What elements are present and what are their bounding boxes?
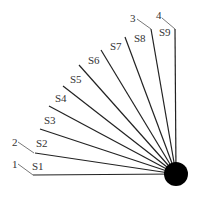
radial-line-s2: [35, 153, 176, 174]
hub-circle: [164, 162, 188, 186]
callouts: 1234: [12, 9, 175, 175]
line-label-s4: S4: [55, 92, 67, 104]
radial-line-s4: [49, 106, 176, 174]
radial-line-s1: [33, 174, 176, 175]
callout-leader-3: [137, 19, 151, 29]
callout-number-4: 4: [156, 9, 162, 21]
line-label-s3: S3: [44, 114, 56, 126]
callout-leader-1: [18, 164, 33, 175]
callout-number-1: 1: [12, 158, 18, 170]
line-label-s5: S5: [70, 73, 82, 85]
radial-line-l4: [175, 29, 176, 174]
callout-number-3: 3: [130, 12, 136, 24]
line-label-s8: S8: [134, 32, 146, 44]
line-label-s7: S7: [110, 40, 122, 52]
fan-diagram-svg: S1S2S3S4S5S6S7S8S9 1234: [0, 0, 198, 199]
line-label-s2: S2: [36, 137, 48, 149]
fan-diagram: S1S2S3S4S5S6S7S8S9 1234: [0, 0, 198, 199]
line-label-s1: S1: [32, 160, 44, 172]
line-label-s9: S9: [159, 26, 171, 38]
line-label-s6: S6: [88, 54, 100, 66]
callout-number-2: 2: [12, 136, 18, 148]
line-labels: S1S2S3S4S5S6S7S8S9: [32, 26, 171, 172]
callout-leader-2: [18, 142, 34, 153]
